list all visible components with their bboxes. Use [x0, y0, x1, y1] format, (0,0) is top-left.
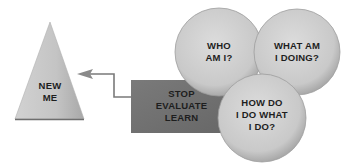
box-label: STOP EVALUATE LEARN [131, 88, 232, 124]
circle-label-who-am-i: WHO AM I? [189, 40, 249, 64]
circle-label-how-do-i-do-what-i-do: HOW DO I DO WHAT I DO? [224, 97, 300, 133]
diagram-canvas: NEW ME STOP EVALUATE LEARN WHO AM I? WHA… [0, 0, 350, 164]
triangle-label: NEW ME [24, 80, 76, 104]
circle-label-what-am-i-doing: WHAT AM I DOING? [262, 40, 332, 64]
triangle-new-me [15, 22, 84, 120]
